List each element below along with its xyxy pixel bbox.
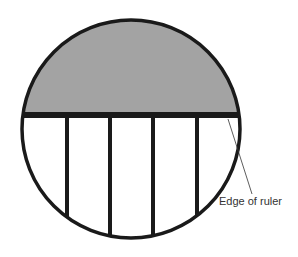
shaded-region <box>0 0 298 115</box>
graduation-line-4 <box>195 115 199 255</box>
ruler-edge-label: Edge of ruler <box>219 195 282 207</box>
graduation-line-1 <box>65 115 69 255</box>
magnified-view-diagram <box>0 0 298 257</box>
ruler-edge-line <box>0 112 298 118</box>
